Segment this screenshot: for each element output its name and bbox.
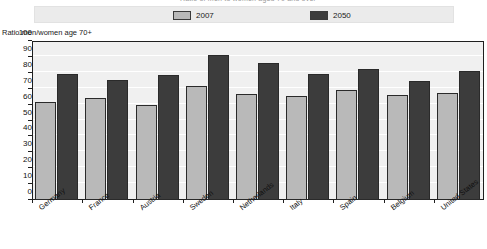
y-tick-label: 90 [6,45,32,53]
bar-germany-2050 [57,74,78,200]
bar-france-2050 [107,80,128,200]
legend-entry-2007: 2007 [173,10,214,21]
y-tick-label: 40 [6,124,32,132]
y-tick-label: 100 [6,29,32,37]
chart-title-text: Ratio of men to women aged 70 and over [180,0,316,2]
bar-group [85,41,129,200]
legend-entry-2050: 2050 [310,10,351,21]
legend-swatch-2007 [173,11,191,20]
y-tick-label: 0 [6,188,32,196]
bar-group [236,41,280,200]
bar-united-states-2007 [437,93,458,200]
legend-swatch-2050 [310,11,328,20]
bar-spain-2050 [358,69,379,200]
bar-sweden-2007 [186,86,207,200]
bar-italy-2050 [308,74,329,200]
chart-legend: 2007 2050 [34,6,454,23]
bar-belgium-2007 [387,95,408,200]
y-tick-label: 80 [6,61,32,69]
bar-spain-2007 [336,90,357,201]
bar-sweden-2050 [208,55,229,200]
bar-group [387,41,431,200]
y-tick-label: 60 [6,93,32,101]
y-axis: 0102030405060708090100 [0,41,32,200]
y-tick-label: 30 [6,140,32,148]
y-tick-label: 70 [6,77,32,85]
y-tick-label: 10 [6,172,32,180]
bar-belgium-2050 [409,81,430,200]
bar-italy-2007 [286,96,307,200]
bar-netherlands-2007 [236,94,257,200]
x-axis-labels: GermanyFranceAustriaSwedenNetherlandsIta… [32,203,484,249]
bar-france-2007 [85,98,106,200]
chart-figure: Ratio of men to women aged 70 and over 2… [0,0,487,249]
bar-germany-2007 [35,102,56,200]
bar-group [136,41,180,200]
bar-group [186,41,230,200]
legend-label-2050: 2050 [333,11,351,20]
bar-group [336,41,380,200]
y-tick-label: 50 [6,109,32,117]
legend-label-2007: 2007 [196,11,214,20]
bar-group [35,41,79,200]
bar-austria-2050 [158,75,179,200]
y-tick-label: 20 [6,156,32,164]
bar-austria-2007 [136,105,157,200]
clipped-chart-title: Ratio of men to women aged 70 and over [0,0,487,5]
bars-layer [32,41,484,200]
bar-group [286,41,330,200]
